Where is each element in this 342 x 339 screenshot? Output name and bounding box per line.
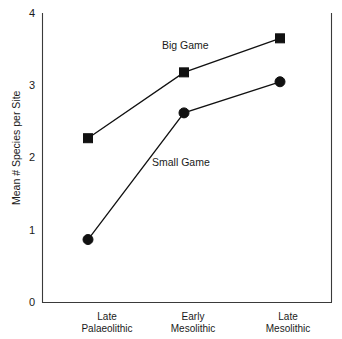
- data-point-big-game-1: [180, 68, 189, 77]
- data-point-big-game-2: [276, 34, 285, 43]
- x-category-label-1-line2: Mesolithic: [171, 323, 215, 334]
- data-point-small-game-1: [179, 108, 189, 118]
- x-category-label-0-line1: Late: [97, 311, 117, 322]
- x-category-label-2-line1: Late: [278, 311, 298, 322]
- y-tick-label-3: 3: [29, 79, 35, 91]
- chart-container: 4 3 2 1 0 Mean # Species per Site Late P…: [0, 0, 342, 339]
- x-category-label-1-line1: Early: [182, 311, 205, 322]
- y-tick-label-4: 4: [29, 7, 35, 19]
- y-axis-title: Mean # Species per Site: [10, 90, 22, 205]
- y-tick-label-1: 1: [29, 224, 35, 236]
- x-category-label-0-line2: Palaeolithic: [81, 323, 132, 334]
- x-category-label-2-line2: Mesolithic: [266, 323, 310, 334]
- data-point-small-game-2: [275, 77, 285, 87]
- data-point-big-game-0: [84, 134, 93, 143]
- data-point-small-game-0: [83, 235, 93, 245]
- series-line-big-game: [88, 38, 280, 138]
- y-tick-label-2: 2: [29, 151, 35, 163]
- series-annotation-big-game: Big Game: [162, 39, 209, 51]
- y-tick-label-0: 0: [29, 296, 35, 308]
- line-chart: 4 3 2 1 0 Mean # Species per Site Late P…: [0, 0, 342, 339]
- series-annotation-small-game: Small Game: [152, 156, 210, 168]
